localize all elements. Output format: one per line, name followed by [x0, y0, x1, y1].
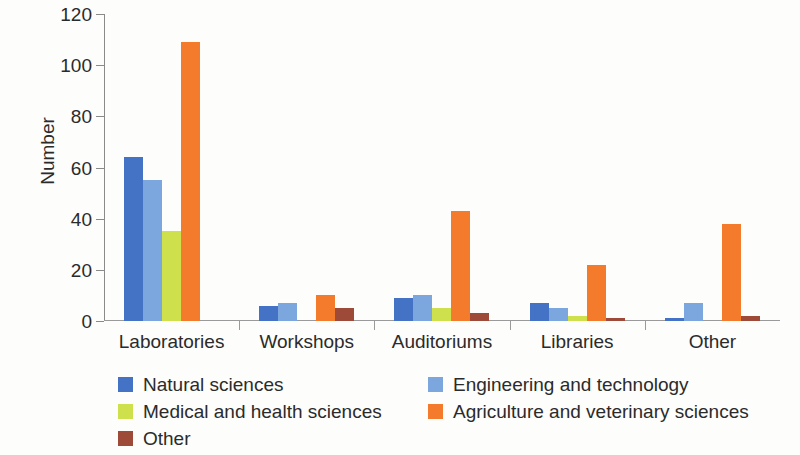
legend-swatch-icon — [118, 431, 133, 446]
x-axis-tick-label: Auditoriums — [374, 332, 509, 351]
bar — [587, 265, 606, 321]
bar — [259, 306, 278, 321]
y-axis-tick-mark — [96, 270, 104, 271]
legend-label: Other — [143, 429, 191, 448]
y-axis-tick-label: 0 — [0, 312, 92, 331]
legend-swatch-icon — [118, 377, 133, 392]
x-axis-tick-mark — [239, 321, 240, 330]
legend-item-medical-and-health-sciences: Medical and health sciences — [118, 398, 428, 425]
x-axis-tick-mark — [374, 321, 375, 330]
bar — [568, 316, 587, 321]
bar-group — [104, 14, 239, 321]
y-axis-tick-mark — [96, 116, 104, 117]
y-axis-tick-mark — [96, 65, 104, 66]
bar-group — [239, 14, 374, 321]
bar — [665, 318, 684, 321]
bar — [549, 308, 568, 321]
x-axis-tick-mark — [645, 321, 646, 330]
y-axis-tick-label: 60 — [0, 159, 92, 178]
legend-swatch-icon — [428, 404, 443, 419]
bar — [741, 316, 760, 321]
legend-label: Medical and health sciences — [143, 402, 382, 421]
y-axis-title: Number — [37, 71, 59, 231]
legend-swatch-icon — [428, 377, 443, 392]
y-axis-tick-label: 120 — [0, 5, 92, 24]
bar — [606, 318, 625, 321]
bar — [143, 180, 162, 321]
bar — [181, 42, 200, 321]
y-axis-tick-mark — [96, 219, 104, 220]
legend-row: Other — [118, 425, 798, 452]
bar — [394, 298, 413, 321]
legend-row: Natural sciences Engineering and technol… — [118, 371, 798, 398]
legend-item-engineering-and-technology: Engineering and technology — [428, 371, 689, 398]
legend-item-other: Other — [118, 425, 428, 452]
legend-label: Agriculture and veterinary sciences — [453, 402, 749, 421]
legend-item-agriculture-and-veterinary-sciences: Agriculture and veterinary sciences — [428, 398, 749, 425]
legend-swatch-icon — [118, 404, 133, 419]
y-axis-tick-mark — [96, 168, 104, 169]
bar — [432, 308, 451, 321]
bar — [124, 157, 143, 321]
legend-item-natural-sciences: Natural sciences — [118, 371, 428, 398]
bar — [451, 211, 470, 321]
plot-area — [104, 14, 780, 321]
bar — [162, 231, 181, 321]
x-axis-tick-label: Other — [645, 332, 780, 351]
x-axis-tick-label: Laboratories — [104, 332, 239, 351]
y-axis-tick-label: 100 — [0, 56, 92, 75]
legend-label: Natural sciences — [143, 375, 283, 394]
bar — [684, 303, 703, 321]
bar-group — [645, 14, 780, 321]
x-axis-tick-label: Libraries — [510, 332, 645, 351]
legend-row: Medical and health sciences Agriculture … — [118, 398, 798, 425]
y-axis-tick-mark — [96, 14, 104, 15]
bar — [335, 308, 354, 321]
bar — [722, 224, 741, 321]
bar — [530, 303, 549, 321]
y-axis-tick-label: 20 — [0, 261, 92, 280]
legend-label: Engineering and technology — [453, 375, 689, 394]
chart-legend: Natural sciences Engineering and technol… — [118, 371, 798, 452]
bar — [278, 303, 297, 321]
bar — [470, 313, 489, 321]
bar — [316, 295, 335, 321]
y-axis-tick-mark — [96, 321, 104, 322]
y-axis-tick-label: 80 — [0, 107, 92, 126]
bar-chart-figure: Number 020406080100120 LaboratoriesWorks… — [0, 0, 800, 455]
x-axis-tick-mark — [510, 321, 511, 330]
bar-group — [510, 14, 645, 321]
bar-group — [374, 14, 509, 321]
bar — [413, 295, 432, 321]
y-axis-tick-label: 40 — [0, 210, 92, 229]
x-axis-tick-label: Workshops — [239, 332, 374, 351]
